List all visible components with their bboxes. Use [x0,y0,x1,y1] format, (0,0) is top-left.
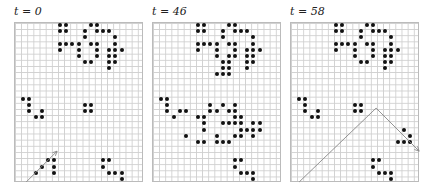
trajectory-arrow-icon [0,0,432,191]
